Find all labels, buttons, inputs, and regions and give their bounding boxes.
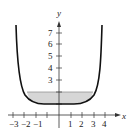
y-tick-label: 5 (48, 51, 53, 61)
y-tick-label: 7 (48, 28, 53, 38)
x-tick-label: −1 (33, 119, 43, 129)
x-axis-arrow-icon (115, 113, 121, 117)
x-tick-label: 1 (68, 119, 73, 129)
x-tick-label: 2 (79, 119, 84, 129)
y-axis-label: y (56, 8, 61, 18)
x-tick-label: 3 (91, 119, 96, 129)
y-tick-label: 3 (48, 75, 53, 85)
x-axis-label: x (121, 111, 126, 121)
y-tick-label: 4 (48, 63, 53, 73)
x-tick-label: −3 (9, 119, 19, 129)
chart: −3 −2 −1 1 2 3 4 7 6 5 4 3 x y (0, 0, 129, 135)
y-tick-label: 6 (48, 39, 53, 49)
x-tick-label: 4 (102, 119, 107, 129)
x-tick-label: −2 (21, 119, 31, 129)
y-axis-arrow-icon (57, 21, 61, 27)
